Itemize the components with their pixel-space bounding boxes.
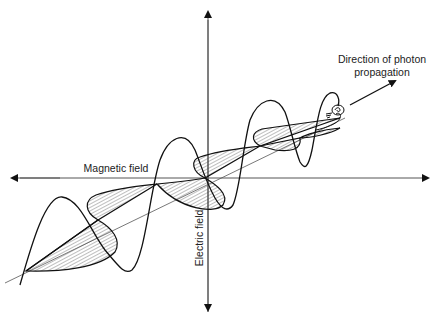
- propagation-direction-arrow: [350, 81, 395, 105]
- electric-field-label: Electric field: [193, 210, 205, 267]
- direction-label-line2: propagation: [354, 66, 410, 78]
- em-wave-diagram: Direction of photon propagation Magnetic…: [0, 0, 441, 319]
- direction-label-line1: Direction of photon: [338, 53, 426, 65]
- magnetic-field-label: Magnetic field: [84, 162, 149, 174]
